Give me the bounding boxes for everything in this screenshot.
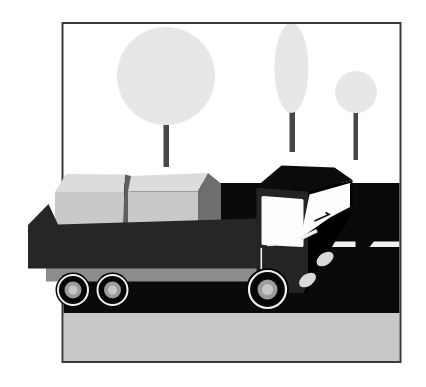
rear-wheel-1 (56, 273, 91, 308)
front-wheel-hub-cap (262, 284, 273, 295)
ground-strip (64, 313, 400, 362)
cargo-box-right-top (128, 173, 208, 192)
rear-wheel-2 (95, 273, 130, 308)
side-window (263, 198, 302, 246)
road-center-line-dash-2 (370, 242, 400, 248)
cypress-tree-trunk (290, 111, 296, 152)
cargo-box-left-front (55, 192, 124, 226)
small-tree-foliage (335, 71, 377, 113)
large-tree-foliage (117, 27, 215, 125)
rear-wheel-2-hub-cap (108, 286, 117, 295)
cargo-box-left-top (55, 174, 125, 192)
truck-clipart-illustration (0, 0, 426, 387)
cargo-box-left (55, 174, 131, 226)
large-tree-trunk (164, 122, 170, 167)
illustration-stage (0, 0, 426, 387)
front-wheel (246, 268, 289, 311)
small-tree-trunk (354, 111, 359, 160)
road-center-line-dash-1 (332, 242, 356, 248)
rear-wheel-1-hub-cap (69, 286, 78, 295)
cargo-box-right (128, 173, 221, 226)
cypress-tree-foliage (275, 23, 309, 113)
